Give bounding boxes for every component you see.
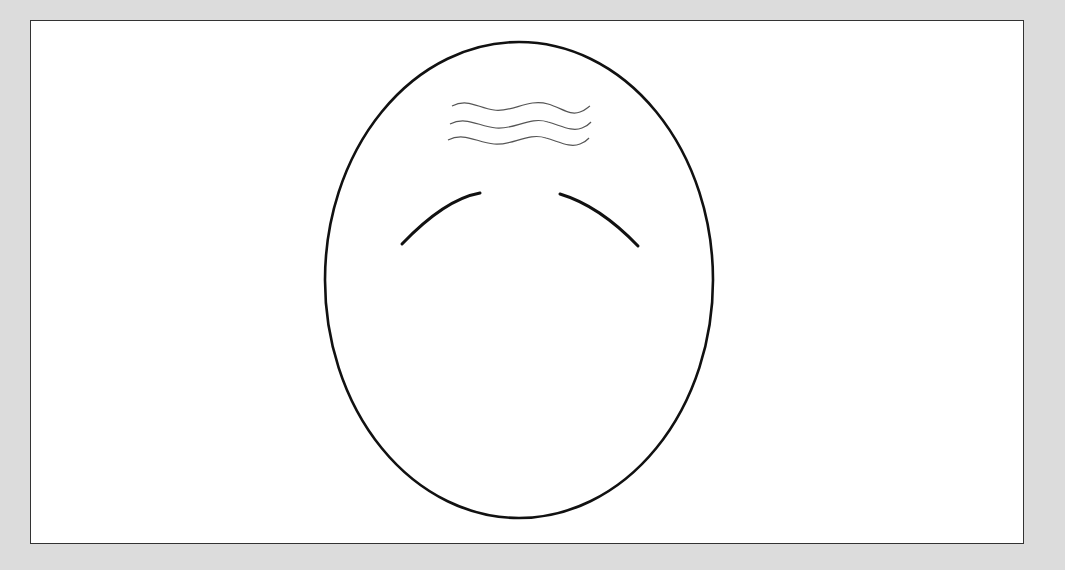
right-eyebrow	[560, 194, 638, 246]
left-eyebrow	[402, 193, 480, 244]
head-outline	[325, 42, 713, 518]
eyebrows	[402, 193, 638, 246]
forehead-wrinkles	[448, 103, 591, 146]
head-illustration	[0, 0, 1065, 570]
